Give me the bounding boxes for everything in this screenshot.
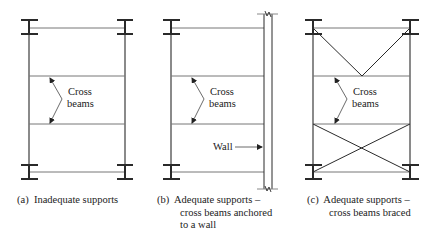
caption-b-tag: (b): [157, 194, 169, 205]
i-beam-icon: [21, 20, 38, 34]
i-beam-icon: [117, 20, 133, 34]
panel-a-cross-label: Cross: [68, 86, 92, 98]
i-beam-icon: [163, 20, 180, 34]
panel-b-beams-label: beams: [209, 98, 236, 110]
caption-a-tag: (a): [17, 194, 29, 205]
caption-b: (b) Adequate supports –: [157, 194, 260, 207]
caption-b-line-1: Adequate supports –: [174, 194, 260, 205]
i-beam-icon: [402, 20, 419, 34]
wall-icon: [257, 11, 278, 192]
panel-c-cross-label: Cross: [353, 86, 377, 98]
caption-b-line-2: cross beams anchored: [180, 207, 272, 220]
caption-c-line-2: cross beams braced: [329, 207, 411, 220]
caption-a: (a) Inadequate supports: [17, 194, 118, 207]
x-brace-icon: [313, 124, 410, 172]
panel-c-beams-label: beams: [352, 98, 379, 110]
i-beam-icon: [305, 20, 322, 34]
panel-a-beams-label: beams: [67, 98, 94, 110]
caption-c-tag: (c): [307, 194, 319, 205]
cross-beams-leader-icon: [335, 78, 347, 123]
caption-c: (c) Adequate supports –: [307, 194, 410, 207]
caption-b-line-3: to a wall: [180, 219, 216, 232]
v-brace-icon: [314, 29, 409, 76]
caption-c-line-1: Adequate supports –: [323, 194, 409, 205]
panel-b-cross-label: Cross: [210, 86, 234, 98]
cross-beams-leader-icon: [192, 78, 204, 123]
cross-beams-leader-icon: [50, 78, 62, 123]
wall-label: Wall: [213, 141, 233, 153]
caption-a-line-1: Inadequate supports: [34, 194, 118, 205]
